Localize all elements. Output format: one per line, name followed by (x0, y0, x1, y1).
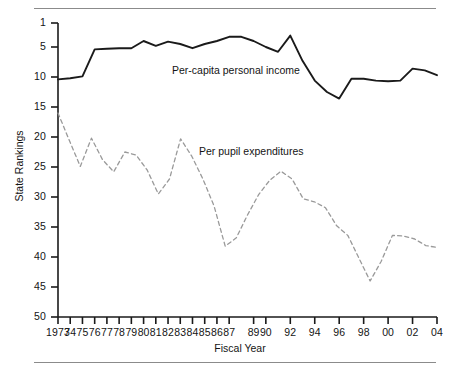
y-tick-label: 40 (24, 250, 46, 262)
y-tick-label: 20 (24, 130, 46, 142)
x-tick-label: 90 (257, 326, 275, 338)
x-tick-label: 92 (281, 326, 299, 338)
series-annotation-pupil: Per pupil expenditures (199, 145, 303, 157)
y-tick-label: 30 (24, 190, 46, 202)
y-tick-label: 15 (24, 100, 46, 112)
y-tick-label: 35 (24, 220, 46, 232)
x-tick-label: 00 (379, 326, 397, 338)
y-axis-title: State Rankings (13, 125, 25, 207)
line-chart-plot (0, 0, 469, 371)
y-tick-label: 1 (24, 16, 46, 28)
x-tick-label: 98 (355, 326, 373, 338)
x-tick-label: 04 (428, 326, 446, 338)
y-tick-label: 25 (24, 160, 46, 172)
y-tick-label: 50 (24, 310, 46, 322)
x-tick-label: 94 (306, 326, 324, 338)
x-axis-title: Fiscal Year (180, 342, 300, 354)
x-tick-label: 96 (330, 326, 348, 338)
series-line-pupil (58, 113, 437, 281)
series-annotation-income: Per-capita personal income (172, 64, 300, 76)
y-tick-label: 5 (24, 40, 46, 52)
x-tick-label: 87 (220, 326, 238, 338)
y-tick-marks (51, 23, 58, 317)
x-tick-label: 02 (404, 326, 422, 338)
x-tick-marks (58, 317, 437, 324)
y-tick-label: 10 (24, 70, 46, 82)
figure-container: 15101520253035404550 1973747576777879808… (0, 0, 469, 371)
y-tick-label: 45 (24, 280, 46, 292)
